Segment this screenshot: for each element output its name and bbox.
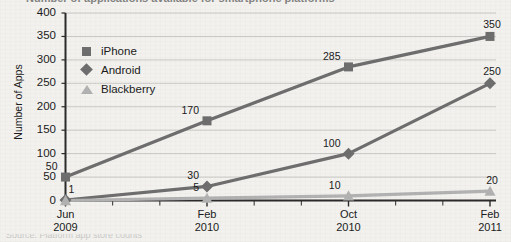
data-point-android-1 <box>201 180 213 192</box>
point-label-iphone-1: 170 <box>181 104 199 116</box>
cropped-caption-bottom-text: Source: Platform app store counts <box>6 234 142 240</box>
point-label-blackberry-2: 10 <box>329 179 341 191</box>
data-point-android-2 <box>343 148 355 160</box>
point-label-android-0: 1 <box>69 183 75 195</box>
cropped-caption-top-text: Number of applications available for sma… <box>26 0 335 4</box>
legend-item-iphone[interactable]: iPhone <box>80 41 155 60</box>
x-tick-label-year-2: 2010 <box>304 221 394 234</box>
legend-label-iphone: iPhone <box>101 44 137 58</box>
chart-legend: iPhone Android Blackberry <box>80 41 155 98</box>
legend-item-android[interactable]: Android <box>80 60 155 79</box>
x-tick-label-month-0: Jun <box>57 208 75 220</box>
point-label-blackberry-1: 5 <box>193 181 199 193</box>
legend-label-blackberry: Blackberry <box>101 82 155 96</box>
x-tick-label-0: Jun2009 <box>21 208 111 234</box>
chart-figure: Number of applications available for sma… <box>0 0 511 242</box>
x-tick-label-year-3: 2011 <box>445 221 511 234</box>
legend-label-android: Android <box>101 63 141 77</box>
cropped-caption-top: Number of applications available for sma… <box>0 0 511 7</box>
data-point-iphone-0 <box>61 173 70 182</box>
data-point-iphone-2 <box>344 62 353 71</box>
point-label-blackberry-3: 20 <box>486 174 498 186</box>
point-label-android-2: 100 <box>323 137 341 149</box>
data-point-iphone-3 <box>486 32 495 41</box>
cropped-caption-bottom: Source: Platform app store counts <box>0 234 511 242</box>
x-tick-label-year-1: 2010 <box>162 221 252 234</box>
point-label-android-3: 250 <box>483 65 501 77</box>
x-tick-label-month-1: Feb <box>198 208 217 220</box>
x-tick-label-month-3: Feb <box>481 208 500 220</box>
point-label-iphone-0: 50 <box>46 160 58 172</box>
square-marker-icon <box>80 44 94 58</box>
x-tick-label-year-0: 2009 <box>21 221 111 234</box>
triangle-marker-icon <box>80 82 94 96</box>
x-tick-label-1: Feb2010 <box>162 208 252 234</box>
data-point-iphone-1 <box>203 116 212 125</box>
point-label-iphone-2: 285 <box>323 50 341 62</box>
series-line-android <box>66 83 491 200</box>
x-tick-label-3: Feb2011 <box>445 208 511 234</box>
legend-item-blackberry[interactable]: Blackberry <box>80 79 155 98</box>
data-point-android-3 <box>484 77 496 89</box>
x-tick-label-month-2: Oct <box>340 208 357 220</box>
point-label-android-1: 30 <box>187 169 199 181</box>
x-tick-label-2: Oct2010 <box>304 208 394 234</box>
point-label-iphone-3: 350 <box>483 18 501 30</box>
diamond-marker-icon <box>80 63 94 77</box>
